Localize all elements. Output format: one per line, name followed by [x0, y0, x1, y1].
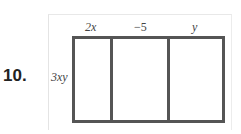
column-label-3: y — [192, 20, 197, 35]
row-label: 3xy — [51, 70, 68, 85]
divider-1 — [110, 36, 113, 123]
column-label-1: 2x — [85, 20, 96, 35]
problem-number: 10. — [3, 66, 27, 86]
divider-2 — [167, 36, 170, 123]
area-model-box — [72, 36, 225, 123]
column-label-2: −5 — [134, 20, 147, 35]
